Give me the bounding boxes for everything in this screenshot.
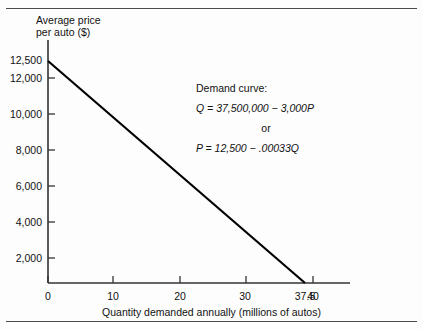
annotation-heading: Demand curve: — [196, 78, 336, 98]
demand-curve-figure: Average price per auto ($) 12,500 12,000… — [0, 0, 423, 330]
annotation-equation-price: P = 12,500 − .00033Q — [196, 138, 336, 158]
annotation-equation-quantity: Q = 37,500,000 − 3,000P — [196, 98, 336, 118]
annotation-or: or — [196, 118, 336, 138]
plot-area — [0, 0, 423, 330]
x-axis-title: Quantity demanded annually (millions of … — [0, 306, 423, 318]
demand-curve-annotation: Demand curve: Q = 37,500,000 − 3,000P or… — [196, 78, 336, 158]
